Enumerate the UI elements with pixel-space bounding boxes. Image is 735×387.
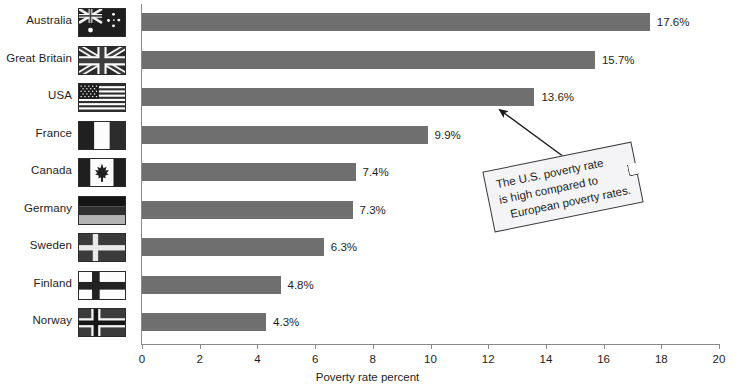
x-axis-tick-label: 0 <box>139 352 145 366</box>
bar-value-label: 4.8% <box>288 277 314 293</box>
bar-value-label: 6.3% <box>331 239 357 255</box>
bar <box>142 313 266 331</box>
x-axis-title: Poverty rate percent <box>0 370 735 384</box>
flag-norway-icon <box>78 308 126 337</box>
chart-row: Great Britain15.7% <box>0 42 735 79</box>
x-axis-tick <box>546 344 547 349</box>
flag-great-britain-icon <box>78 46 126 75</box>
category-label: Sweden <box>0 238 72 252</box>
category-label: Norway <box>0 313 72 327</box>
x-axis-tick <box>661 344 662 349</box>
chart-row: Sweden6.3% <box>0 229 735 266</box>
category-label: Canada <box>0 163 72 177</box>
x-axis-tick-label: 20 <box>713 352 726 366</box>
x-axis-tick <box>373 344 374 349</box>
x-axis-tick <box>315 344 316 349</box>
x-axis-tick-label: 2 <box>196 352 202 366</box>
category-label: Finland <box>0 276 72 290</box>
flag-germany-icon <box>78 196 126 225</box>
bar <box>142 201 353 219</box>
flag-canada-icon <box>78 158 126 187</box>
category-label: Australia <box>0 13 72 27</box>
x-axis-tick-label: 12 <box>482 352 495 366</box>
flag-sweden-icon <box>78 233 126 262</box>
y-axis-line <box>141 4 142 344</box>
flag-usa-icon <box>78 83 126 112</box>
bar <box>142 238 324 256</box>
chart-row: Norway4.3% <box>0 304 735 341</box>
flag-australia-icon <box>78 8 126 37</box>
chart-row: Finland4.8% <box>0 267 735 304</box>
x-axis-tick <box>257 344 258 349</box>
category-label: France <box>0 126 72 140</box>
chart-row: Australia17.6% <box>0 4 735 41</box>
bar-value-label: 13.6% <box>541 89 574 105</box>
x-axis-tick <box>719 344 720 349</box>
chart-row: USA13.6% <box>0 79 735 116</box>
bar <box>142 276 281 294</box>
x-axis-tick-label: 8 <box>370 352 376 366</box>
flag-france-icon <box>78 121 126 150</box>
x-axis-tick-label: 14 <box>539 352 552 366</box>
bar <box>142 88 534 106</box>
bar-value-label: 4.3% <box>273 314 299 330</box>
category-label: Great Britain <box>0 51 72 65</box>
category-label: Germany <box>0 201 72 215</box>
bar-value-label: 9.9% <box>435 127 461 143</box>
callout-fold-corner <box>627 163 639 177</box>
x-axis-tick-label: 4 <box>254 352 260 366</box>
bar-value-label: 7.4% <box>363 164 389 180</box>
bar-value-label: 7.3% <box>360 202 386 218</box>
bar <box>142 163 356 181</box>
bar <box>142 13 650 31</box>
poverty-rate-bar-chart: Australia17.6%Great Britain15.7%USA13.6%… <box>0 0 735 387</box>
x-axis-tick-label: 10 <box>424 352 437 366</box>
category-label: USA <box>0 88 72 102</box>
bar-value-label: 17.6% <box>657 14 690 30</box>
x-axis-tick <box>488 344 489 349</box>
x-axis-tick-label: 18 <box>655 352 668 366</box>
flag-finland-icon <box>78 271 126 300</box>
x-axis-tick-label: 16 <box>597 352 610 366</box>
x-axis-tick <box>200 344 201 349</box>
bar-value-label: 15.7% <box>602 52 635 68</box>
x-axis-tick <box>431 344 432 349</box>
x-axis-tick <box>142 344 143 349</box>
x-axis-tick-label: 6 <box>312 352 318 366</box>
bar <box>142 126 428 144</box>
x-axis-tick <box>604 344 605 349</box>
bar <box>142 51 595 69</box>
